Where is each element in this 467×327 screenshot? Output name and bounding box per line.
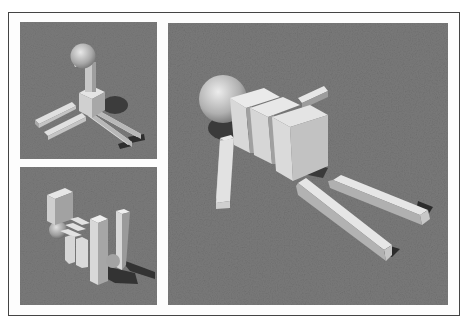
- creature-upright-render: [20, 22, 157, 159]
- head-sphere: [71, 44, 96, 69]
- panel-bottom-left-render: [20, 167, 157, 305]
- leg-bar: [65, 235, 75, 264]
- creature-side-render: [20, 167, 157, 305]
- shadow: [102, 96, 128, 114]
- panel-right-render: [168, 23, 448, 305]
- leg-bar: [76, 237, 88, 268]
- panel-top-left-render: [20, 22, 157, 159]
- ground-plane: [20, 167, 157, 305]
- creature-prone-render: [168, 23, 448, 305]
